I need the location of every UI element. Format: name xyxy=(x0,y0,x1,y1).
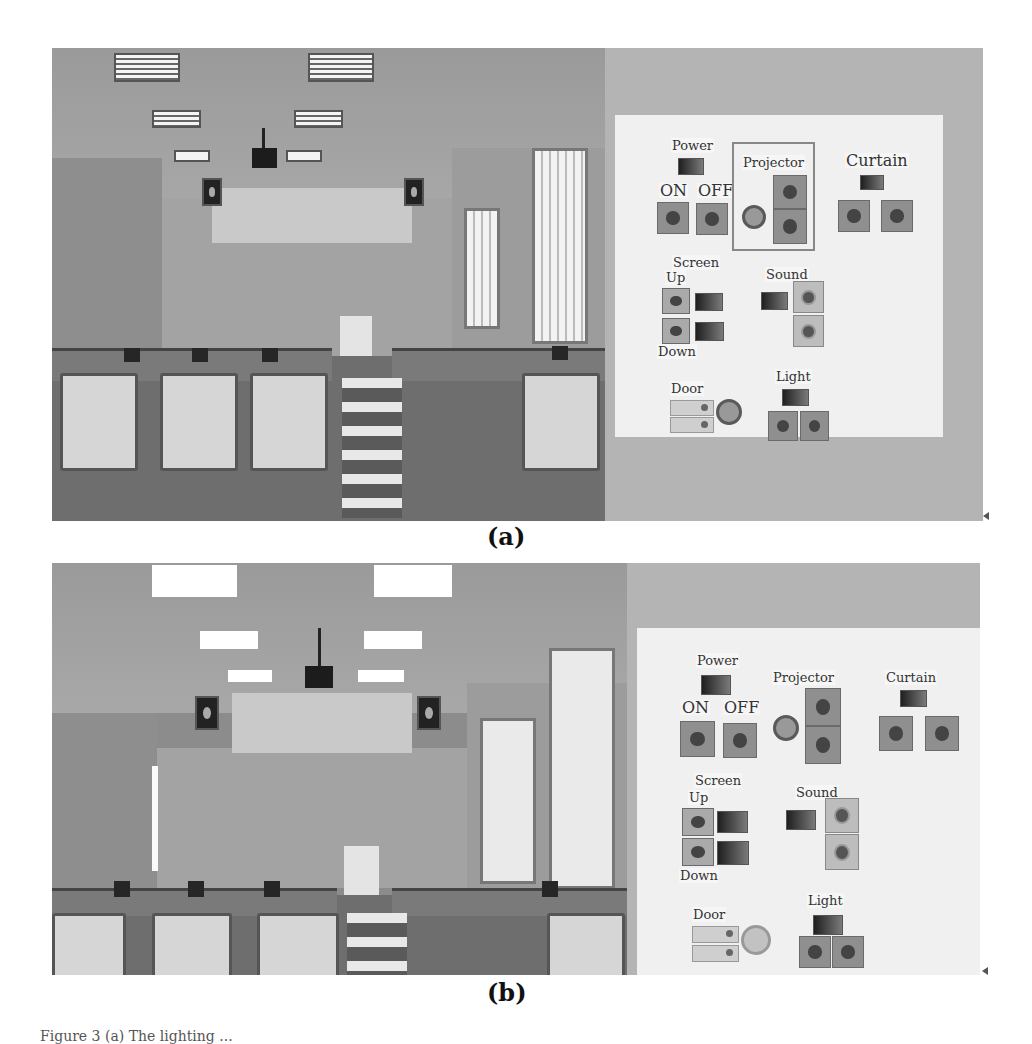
door-knob[interactable] xyxy=(716,399,742,425)
ceiling-light xyxy=(152,565,237,597)
screen-up-button[interactable] xyxy=(682,808,714,836)
projector-mount xyxy=(262,128,265,150)
on-label: ON xyxy=(659,183,688,198)
light-indicator xyxy=(813,915,843,935)
sound-indicator xyxy=(786,810,816,830)
ceiling-light xyxy=(174,150,210,162)
aisle xyxy=(347,913,407,975)
projector-on-button[interactable] xyxy=(805,688,841,726)
projection-screen xyxy=(232,693,412,753)
power-label: Power xyxy=(671,138,714,153)
ceiling-light xyxy=(200,631,258,649)
desk-row xyxy=(392,888,627,916)
curtain-closed xyxy=(549,648,615,889)
classroom-scene-a xyxy=(52,48,605,521)
sound-indicator xyxy=(761,292,788,310)
chair xyxy=(547,913,625,975)
power-on-button[interactable] xyxy=(657,202,689,234)
projector-on-button[interactable] xyxy=(773,175,807,209)
power-off-button[interactable] xyxy=(723,723,757,758)
screen-down-button[interactable] xyxy=(662,318,690,344)
projector-off-button[interactable] xyxy=(773,209,807,244)
corner-marker xyxy=(982,967,988,975)
figure-caption: Figure 3 (a) The lighting ... xyxy=(40,1028,233,1044)
light-off-button[interactable] xyxy=(832,936,864,968)
monitor xyxy=(114,881,130,897)
sound-up-button[interactable] xyxy=(793,281,824,313)
curtain-indicator xyxy=(900,690,927,707)
curtain-close-button[interactable] xyxy=(881,200,913,232)
ceiling-projector xyxy=(305,666,333,688)
curtain-label: Curtain xyxy=(885,670,937,685)
ceiling-light xyxy=(286,150,322,162)
ceiling-light xyxy=(308,53,374,82)
curtain-closed xyxy=(480,718,536,884)
door-open-switch[interactable] xyxy=(692,926,739,943)
window-blinds xyxy=(464,208,500,329)
power-off-button[interactable] xyxy=(696,203,728,235)
classroom-scene-b xyxy=(52,563,627,975)
curtain-close-button[interactable] xyxy=(925,716,959,751)
ceiling-light xyxy=(114,53,180,82)
sound-up-button[interactable] xyxy=(825,798,859,833)
door-open-switch[interactable] xyxy=(670,400,714,416)
door-close-switch[interactable] xyxy=(692,945,739,962)
sound-down-button[interactable] xyxy=(825,834,859,870)
corner-marker xyxy=(983,512,989,520)
light-label: Light xyxy=(775,369,812,384)
projector-label: Projector xyxy=(772,670,835,685)
projector-knob[interactable] xyxy=(742,205,766,229)
speaker-right xyxy=(417,696,441,730)
light-label: Light xyxy=(807,893,844,908)
monitor xyxy=(188,881,204,897)
light-on-button[interactable] xyxy=(768,411,798,441)
control-panel-b: Power ON OFF Projector Curtain Screen Up… xyxy=(637,628,980,975)
subfigure-label-a: (a) xyxy=(487,522,525,551)
chair xyxy=(60,373,138,471)
chair xyxy=(152,913,232,975)
screen-up-button[interactable] xyxy=(662,288,690,314)
chair xyxy=(52,913,126,975)
subfigure-label-b: (b) xyxy=(487,978,527,1007)
power-on-button[interactable] xyxy=(680,721,715,757)
ceiling-light xyxy=(228,670,272,682)
control-panel-a: Power ON OFF Projector Curtain Screen Up… xyxy=(615,115,943,437)
curtain-closed xyxy=(152,766,158,871)
light-on-button[interactable] xyxy=(799,936,831,968)
projector-off-button[interactable] xyxy=(805,726,841,764)
door-label: Door xyxy=(670,381,704,396)
window-blinds xyxy=(532,148,588,344)
projector-knob[interactable] xyxy=(773,715,799,741)
speaker-right xyxy=(404,178,424,206)
off-label: OFF xyxy=(697,183,734,198)
monitor xyxy=(552,346,568,360)
curtain-open-button[interactable] xyxy=(838,200,870,232)
back-door xyxy=(344,846,379,901)
sound-label: Sound xyxy=(765,267,809,282)
screen-down-button[interactable] xyxy=(682,838,714,866)
ceiling-light xyxy=(358,670,404,682)
back-wall xyxy=(157,748,467,888)
figure-a: Power ON OFF Projector Curtain Screen Up… xyxy=(52,48,983,521)
screen-down-label: Down xyxy=(657,344,697,359)
door-close-switch[interactable] xyxy=(670,417,714,433)
door-knob[interactable] xyxy=(741,925,771,955)
ceiling-light xyxy=(294,110,343,128)
on-label: ON xyxy=(681,700,710,715)
curtain-label: Curtain xyxy=(845,153,909,168)
ceiling-projector xyxy=(252,148,277,168)
figure-b: Power ON OFF Projector Curtain Screen Up… xyxy=(52,563,980,975)
sound-down-button[interactable] xyxy=(793,315,824,347)
power-indicator xyxy=(701,675,731,695)
monitor xyxy=(264,881,280,897)
screen-down-indicator xyxy=(695,322,724,341)
door-label: Door xyxy=(692,907,726,922)
light-off-button[interactable] xyxy=(800,411,829,441)
off-label: OFF xyxy=(723,700,760,715)
screen-label: Screen xyxy=(672,255,720,270)
projector-label: Projector xyxy=(742,155,805,170)
curtain-open-button[interactable] xyxy=(879,716,913,751)
ceiling-light xyxy=(364,631,422,649)
chair xyxy=(250,373,328,471)
screen-up-label: Up xyxy=(688,790,709,805)
